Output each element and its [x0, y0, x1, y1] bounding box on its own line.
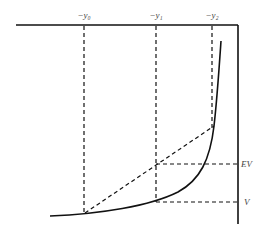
label-y0: −y₀: [77, 10, 90, 20]
label-ev: EV: [240, 159, 253, 169]
label-v: V: [244, 197, 251, 207]
label-y2: −y₂: [205, 10, 218, 20]
main-curve: [50, 41, 221, 216]
dashed-diagonal: [85, 126, 214, 213]
label-y1: −y₁: [149, 10, 162, 20]
diagram-canvas: −y₀ −y₁ −y₂ EV V: [0, 0, 266, 242]
